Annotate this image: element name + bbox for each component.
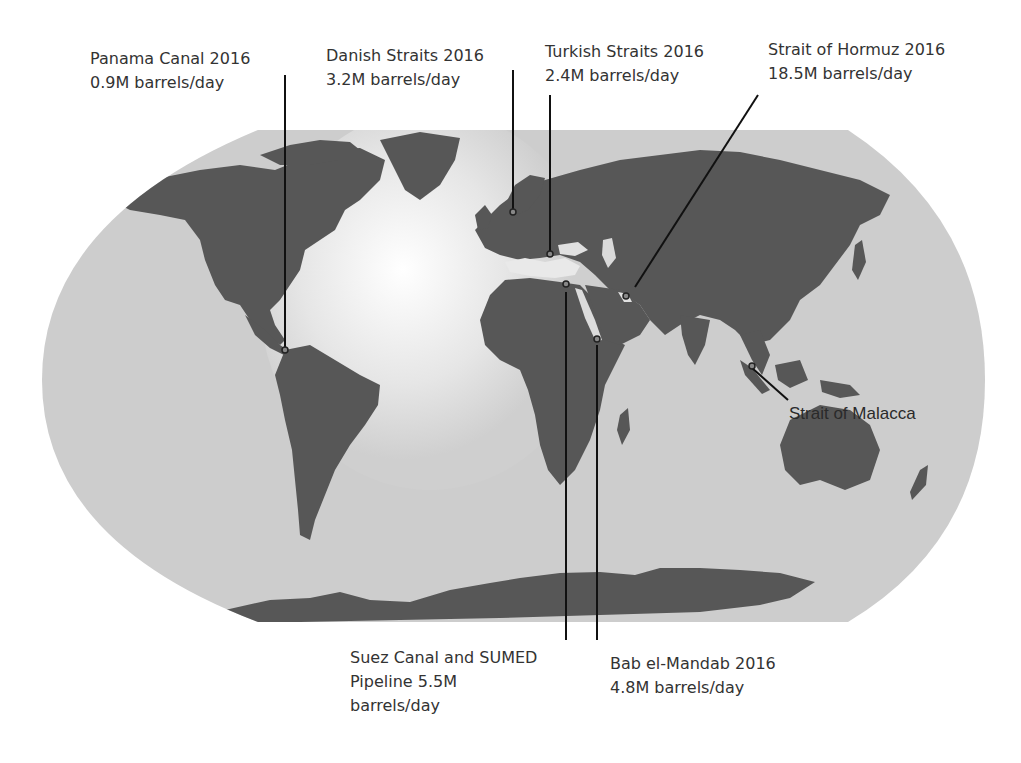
turkish-label-name: Turkish Straits 2016	[545, 40, 704, 64]
turkish-label: Turkish Straits 2016 2.4M barrels/day	[545, 40, 704, 88]
bab-label-value: 4.8M barrels/day	[610, 676, 776, 700]
danish-marker	[510, 209, 516, 215]
suez-marker	[563, 281, 569, 287]
danish-label: Danish Straits 2016 3.2M barrels/day	[326, 44, 484, 92]
bab-marker	[594, 336, 600, 342]
panama-label: Panama Canal 2016 0.9M barrels/day	[90, 47, 250, 95]
suez-label: Suez Canal and SUMED Pipeline 5.5M barre…	[350, 646, 537, 718]
bab-label: Bab el-Mandab 2016 4.8M barrels/day	[610, 652, 776, 700]
panama-marker	[282, 347, 288, 353]
suez-label-name: Suez Canal and SUMED	[350, 646, 537, 670]
panama-label-name: Panama Canal 2016	[90, 47, 250, 71]
suez-label-value: Pipeline 5.5M	[350, 670, 537, 694]
malacca-marker	[749, 363, 755, 369]
turkish-marker	[547, 251, 553, 257]
danish-label-value: 3.2M barrels/day	[326, 68, 484, 92]
suez-label-unit: barrels/day	[350, 694, 537, 718]
hormuz-label: Strait of Hormuz 2016 18.5M barrels/day	[768, 38, 945, 86]
bab-label-name: Bab el-Mandab 2016	[610, 652, 776, 676]
malacca-label: Strait of Malacca	[789, 404, 916, 424]
hormuz-label-value: 18.5M barrels/day	[768, 62, 945, 86]
hormuz-marker	[623, 293, 629, 299]
hormuz-label-name: Strait of Hormuz 2016	[768, 38, 945, 62]
danish-label-name: Danish Straits 2016	[326, 44, 484, 68]
turkish-label-value: 2.4M barrels/day	[545, 64, 704, 88]
panama-label-value: 0.9M barrels/day	[90, 71, 250, 95]
